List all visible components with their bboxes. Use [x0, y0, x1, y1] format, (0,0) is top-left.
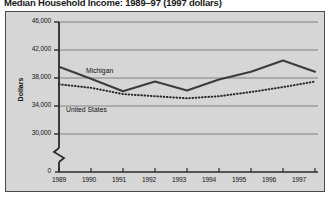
axis-break-icon — [54, 148, 64, 162]
page-title: Median Household Income: 1989–97 (1997 d… — [4, 0, 222, 8]
gridlines — [59, 22, 318, 134]
x-axis — [59, 168, 318, 172]
series-line-michigan — [59, 61, 315, 92]
plot-panel: Dollars 46,000 42,000 38,000 34,000 30,0… — [5, 11, 325, 192]
y-axis — [54, 22, 64, 172]
chart-figure: Median Household Income: 1989–97 (1997 d… — [0, 0, 330, 198]
plot-svg — [6, 12, 324, 191]
